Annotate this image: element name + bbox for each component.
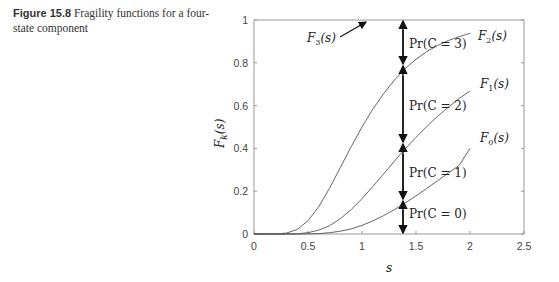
y-tick-label: 0.2: [233, 185, 248, 197]
label-pr-c1: Pr(C = 1): [409, 166, 467, 180]
label-pr-c3: Pr(C = 3): [409, 37, 467, 51]
label-f3: F3(s): [306, 31, 336, 47]
x-tick-label: 2.5: [517, 240, 532, 252]
y-tick-label: 0: [242, 228, 248, 240]
curve-f-0-s-: [254, 148, 470, 234]
y-tick-label: 0.6: [233, 100, 248, 112]
y-tick-label: 0.8: [233, 57, 248, 69]
curve-f-2-s-: [254, 33, 470, 234]
plot-area: [254, 20, 524, 234]
x-tick-label: 0: [251, 240, 257, 252]
f3-pointer-arrow: [340, 22, 366, 37]
label-f2: F2(s): [477, 29, 507, 45]
y-tick-label: 1: [242, 14, 248, 26]
x-tick-label: 1: [359, 240, 365, 252]
label-pr-c2: Pr(C = 2): [409, 99, 467, 113]
fragility-chart: 00.511.522.500.20.40.60.81 Pr(C = 3) Pr(…: [0, 0, 559, 282]
x-tick-label: 1.5: [409, 240, 424, 252]
x-tick-label: 2: [467, 240, 473, 252]
x-tick-label: 0.5: [301, 240, 316, 252]
y-axis-label: Fk(s): [213, 118, 229, 149]
curves: [254, 33, 470, 234]
label-f1: F1(s): [479, 77, 509, 93]
label-f0: F0(s): [479, 131, 509, 147]
x-axis-label: s: [386, 261, 392, 275]
label-pr-c0: Pr(C = 0): [409, 207, 467, 221]
y-tick-label: 0.4: [233, 142, 248, 154]
